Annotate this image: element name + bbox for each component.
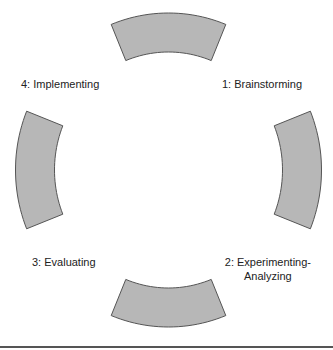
label-experimenting-line2: Analyzing (225, 269, 311, 283)
arc-segment-right (274, 111, 321, 229)
label-brainstorming: 1: Brainstorming (222, 77, 302, 91)
arc-segment-top (111, 13, 226, 61)
arc-segment-bottom (111, 279, 226, 327)
label-evaluating: 3: Evaluating (32, 255, 96, 269)
arc-segment-left (16, 111, 63, 229)
cycle-diagram (0, 0, 333, 350)
label-experimenting: 2: Experimenting- Analyzing (225, 255, 311, 283)
label-implementing: 4: Implementing (21, 77, 99, 91)
label-experimenting-line1: 2: Experimenting- (225, 255, 311, 269)
bottom-rule-divider (0, 346, 333, 348)
